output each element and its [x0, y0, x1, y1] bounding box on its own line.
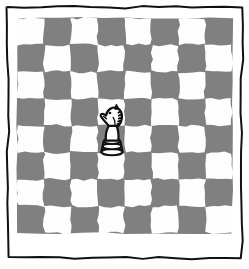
board-square-light-r4c8[interactable] [204, 98, 232, 126]
board-square-light-r6c4[interactable] [97, 153, 125, 180]
knight-eye [109, 112, 112, 115]
board-square-light-r5c3[interactable] [70, 125, 98, 152]
knight-mane-notch-2 [119, 115, 121, 116]
board-square-light-r8c8[interactable] [205, 205, 233, 234]
board-square-light-r5c1[interactable] [17, 125, 45, 153]
board-square-light-r2c4[interactable] [97, 44, 125, 72]
board-square-light-r2c8[interactable] [204, 45, 233, 72]
board-square-light-r4c2[interactable] [44, 98, 72, 126]
board-square-light-r4c6[interactable] [151, 98, 179, 126]
board-square-light-r5c5[interactable] [124, 125, 152, 153]
board-square-light-r2c2[interactable] [43, 45, 71, 73]
board-square-light-r3c1[interactable] [16, 71, 44, 99]
knight-mane-notch-4 [118, 121, 120, 122]
board-square-light-r8c2[interactable] [43, 206, 72, 235]
chessboard-illustration [0, 0, 249, 269]
board-square-light-r6c6[interactable] [151, 152, 179, 179]
board-square-light-r3c5[interactable] [124, 71, 152, 99]
knight-mane-notch-1 [118, 112, 120, 113]
board-square-light-r1c3[interactable] [70, 17, 98, 46]
board-square-light-r7c5[interactable] [124, 179, 152, 207]
board-square-light-r6c2[interactable] [43, 152, 71, 181]
board-square-light-r5c7[interactable] [178, 125, 206, 153]
knight-mane-notch-5 [117, 123, 119, 124]
board-square-light-r1c1[interactable] [16, 17, 44, 46]
board-square-light-r7c1[interactable] [16, 179, 45, 207]
board-square-light-r3c7[interactable] [178, 72, 206, 100]
board-square-light-r7c3[interactable] [70, 178, 98, 207]
knight-mane-notch-3 [119, 118, 121, 119]
board-canvas [0, 0, 249, 269]
board-square-light-r7c7[interactable] [178, 178, 206, 207]
board-square-light-r8c6[interactable] [151, 205, 179, 233]
board-square-light-r3c3[interactable] [70, 71, 99, 99]
board-square-light-r2c6[interactable] [151, 44, 180, 72]
checkerboard [16, 17, 233, 234]
board-square-light-r1c5[interactable] [124, 18, 152, 46]
knight-neck [106, 126, 119, 141]
board-square-light-r8c4[interactable] [97, 206, 125, 234]
board-square-light-r1c7[interactable] [178, 18, 206, 45]
board-square-light-r6c8[interactable] [205, 152, 233, 180]
